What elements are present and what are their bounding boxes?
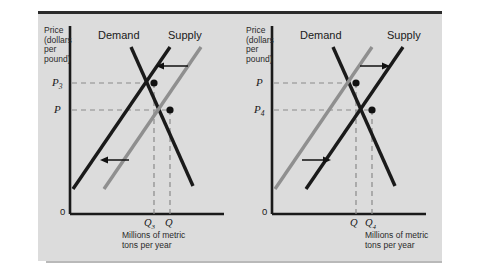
supply-curve-shifted: [73, 47, 170, 189]
y-axis-label: Price (dollars per pound): [246, 26, 274, 64]
supply-curve-original: [275, 47, 372, 189]
equilibrium-dot-new: [368, 106, 375, 113]
price-tick-upper: P3: [52, 76, 62, 91]
price-tick-lower: P4: [254, 103, 264, 118]
y-axis-label: Price (dollars per pound): [44, 26, 72, 64]
quantity-tick-first: Q3: [144, 217, 155, 231]
bottom-rule: [46, 261, 442, 263]
origin-label: 0: [60, 206, 65, 217]
origin-label: 0: [262, 206, 267, 217]
demand-curve-label: Demand: [98, 29, 140, 41]
x-axis-caption: Millions of metric tons per year: [122, 231, 185, 250]
chart-panel-right: Price (dollars per pound) 0 Demand Suppl…: [240, 14, 442, 261]
equilibrium-dot-original: [166, 106, 173, 113]
chart-panel-left: Price (dollars per pound) 0 Demand Suppl…: [38, 14, 240, 261]
shift-arrow-upper: [156, 63, 188, 70]
x-axis-caption: Millions of metric tons per year: [365, 231, 428, 250]
supply-demand-figure: Price (dollars per pound) 0 Demand Suppl…: [0, 0, 480, 280]
equilibrium-dot-new: [150, 79, 157, 86]
demand-curve: [333, 47, 395, 186]
supply-curve-label: Supply: [387, 29, 421, 41]
shift-arrow-upper: [360, 63, 390, 70]
quantity-tick-second: Q4: [365, 217, 376, 231]
equilibrium-dot-original: [352, 79, 359, 86]
price-tick-upper: P: [256, 76, 263, 91]
supply-curve-label: Supply: [168, 29, 202, 41]
quantity-tick-second: Q: [165, 217, 173, 231]
quantity-tick-first: Q: [350, 217, 358, 231]
demand-curve-label: Demand: [300, 29, 342, 41]
price-tick-lower: P: [54, 103, 61, 118]
